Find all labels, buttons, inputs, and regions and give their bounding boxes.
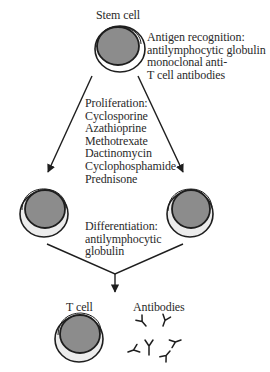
differentiation-line: globulin <box>85 245 161 258</box>
daughter-cell-right <box>167 189 213 237</box>
antibody-icon <box>136 315 149 329</box>
differentiation-title: Differentiation: <box>85 220 161 233</box>
antibody-icon <box>160 348 173 362</box>
proliferation-title: Proliferation: <box>85 97 176 110</box>
proliferation-block: Proliferation: Cyclosporine Azathioprine… <box>85 97 176 185</box>
antibodies-group <box>127 314 183 362</box>
differentiation-block: Differentiation: antilymphocytic globuli… <box>85 220 161 258</box>
antigen-recognition-block: Antigen recognition: antilymphocytic glo… <box>147 31 266 81</box>
antibody-icon <box>159 314 170 327</box>
antigen-recognition-title: Antigen recognition: <box>147 31 266 44</box>
drug-item: Cyclophosphamide <box>85 160 176 173</box>
drug-item: Azathioprine <box>85 122 176 135</box>
antibodies-label: Antibodies <box>133 301 185 314</box>
antigen-recognition-line: T cell antibodies <box>147 69 266 82</box>
antibody-icon <box>145 340 153 355</box>
t-cell-label: T cell <box>66 301 93 314</box>
t-cell <box>55 313 103 362</box>
stem-cell <box>95 26 145 72</box>
antibody-icon <box>127 344 140 355</box>
antibody-icon <box>169 336 182 347</box>
daughter-cell-left <box>20 189 68 237</box>
antigen-recognition-line: monoclonal anti- <box>147 56 266 69</box>
drug-item: Prednisone <box>85 173 176 186</box>
stem-cell-label: Stem cell <box>96 9 140 22</box>
